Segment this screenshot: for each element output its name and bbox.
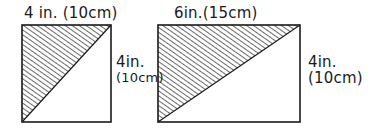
rectangle-side-label: 4in. (10cm)	[308, 54, 363, 86]
rectangle-side-label-inches: 4in.	[308, 54, 363, 70]
square-side-label-cm: (10cm)	[116, 70, 164, 86]
rectangle-side-label-cm: (10cm)	[308, 70, 363, 86]
square-side-label: 4in. (10cm)	[116, 54, 164, 86]
square-top-label: 4 in. (10cm)	[24, 6, 118, 21]
rectangle-top-label: 6in.(15cm)	[174, 6, 258, 21]
square-side-label-inches: 4in.	[116, 54, 164, 70]
rectangle-figure	[158, 25, 300, 122]
square-figure	[22, 25, 111, 122]
